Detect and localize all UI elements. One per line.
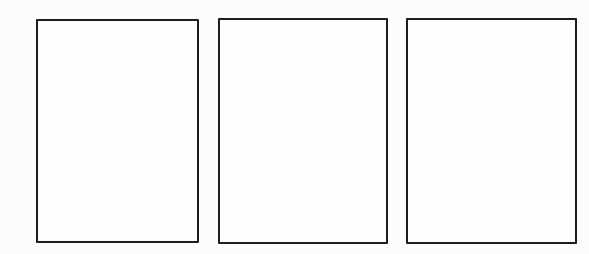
blank-panel-left: [36, 19, 199, 243]
blank-panel-center: [218, 18, 388, 244]
blank-panel-right: [406, 18, 577, 244]
three-blank-panels-figure: [0, 0, 589, 254]
